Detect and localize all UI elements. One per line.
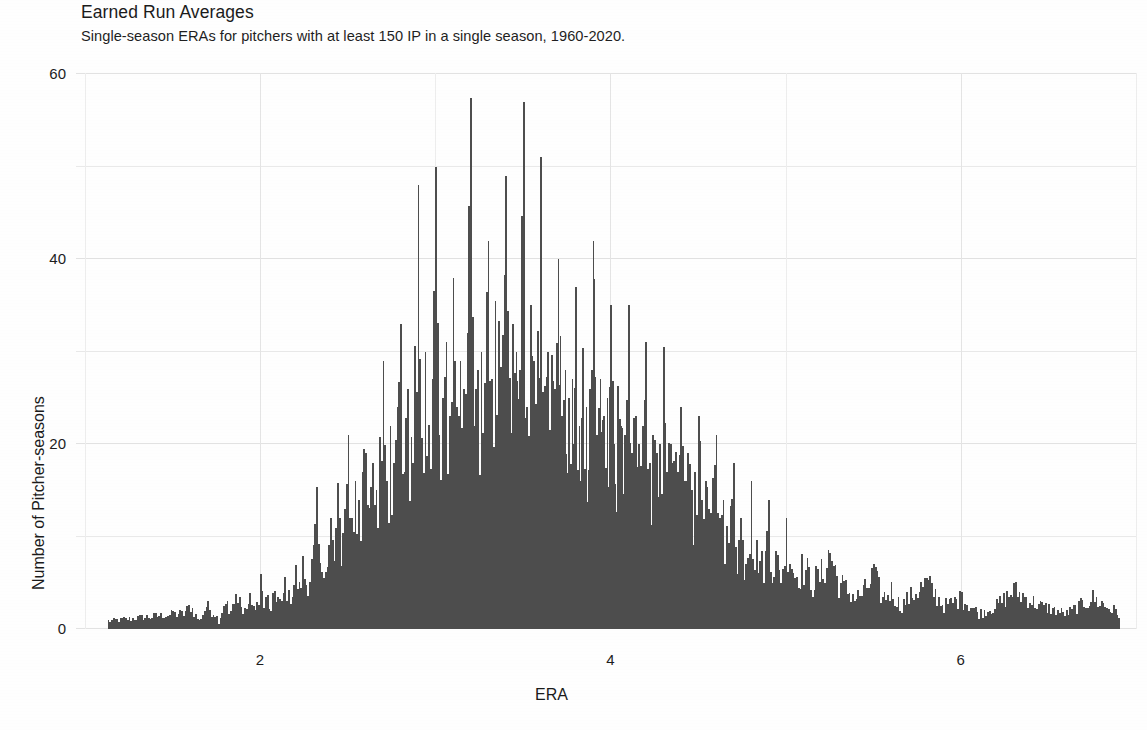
histogram-bar (484, 398, 486, 629)
histogram-bar (635, 416, 637, 629)
histogram-bar (603, 416, 605, 629)
histogram-bar (362, 472, 364, 629)
histogram-bar (716, 435, 718, 629)
histogram-bar (558, 259, 560, 629)
histogram-bar (708, 509, 710, 629)
y-axis-tick-label: 20 (20, 435, 66, 452)
y-axis-ticks: 0204060 (20, 0, 66, 730)
x-axis-tick-label: 4 (606, 651, 614, 668)
histogram-bar (456, 407, 458, 629)
plot-area (76, 73, 1136, 629)
histogram-bar (530, 305, 532, 629)
histogram-bar (519, 370, 521, 629)
histogram-bar (547, 352, 549, 630)
histogram-bar (652, 435, 654, 629)
histogram-bar (509, 389, 511, 630)
histogram-bar (400, 324, 402, 629)
histogram-bar (425, 352, 427, 630)
histogram-bar (607, 398, 609, 629)
histogram-bar (631, 453, 633, 629)
gridline-horizontal (76, 166, 1136, 167)
histogram-bar (449, 416, 451, 629)
histogram-bar (383, 361, 385, 629)
histogram-bar (730, 509, 732, 629)
histogram-bar (694, 472, 696, 629)
histogram-bar (670, 444, 672, 629)
histogram-bar (432, 379, 434, 629)
histogram-bar (421, 453, 423, 629)
histogram-bar (554, 389, 556, 630)
histogram-bar (439, 435, 441, 629)
histogram-bar (663, 370, 665, 629)
gridline-horizontal (76, 351, 1136, 352)
histogram-bar (386, 481, 388, 629)
histogram-bar (565, 370, 567, 629)
histogram-bar (379, 444, 381, 629)
histogram-bar (516, 352, 518, 630)
x-axis-tick-label: 6 (957, 651, 965, 668)
histogram-bar (495, 315, 497, 630)
histogram-bar (551, 361, 553, 629)
x-axis-label: ERA (0, 686, 1147, 704)
histogram-bar (428, 426, 430, 630)
histogram-bar (649, 463, 651, 630)
histogram-bar (680, 407, 682, 629)
histogram-bar (446, 342, 448, 629)
histogram-bar (568, 398, 570, 629)
histogram-bar (512, 324, 514, 629)
histogram-bar (470, 130, 472, 630)
gridline-vertical (85, 73, 86, 629)
histogram-bar (502, 361, 504, 629)
histogram-bar (397, 407, 399, 629)
histogram-bar (659, 444, 661, 629)
histogram-bar (477, 370, 479, 629)
gridline-vertical (260, 73, 261, 629)
histogram-bar (544, 398, 546, 629)
histogram-bar (316, 500, 318, 630)
histogram-bar (453, 278, 455, 630)
histogram-bar (596, 435, 598, 629)
histogram-bar (691, 490, 693, 629)
histogram-bar (351, 518, 353, 629)
histogram-bar (435, 167, 437, 630)
histogram-bar (666, 472, 668, 629)
histogram-bar (442, 398, 444, 629)
histogram-bar (505, 176, 507, 629)
histogram-bar (474, 426, 476, 630)
histogram-bar (390, 426, 392, 630)
histogram-bar (701, 500, 703, 630)
histogram-bar (407, 389, 409, 630)
histogram-bar (572, 379, 574, 629)
histogram-bar (684, 481, 686, 629)
histogram-bar (610, 305, 612, 629)
histogram-bar (589, 389, 591, 630)
histogram-bar (404, 472, 406, 629)
histogram-bar (638, 444, 640, 629)
histogram-bar (751, 481, 753, 629)
histogram-bar (579, 426, 581, 630)
histogram-bar (561, 416, 563, 629)
histogram-bar (677, 472, 679, 629)
histogram-bar (498, 342, 500, 629)
histogram-bar (523, 102, 525, 629)
histogram-bar (365, 453, 367, 629)
gridline-vertical (1136, 73, 1137, 629)
chart-page: Earned Run Averages Single-season ERAs f… (0, 0, 1147, 730)
histogram-bar (344, 509, 346, 629)
histogram-bar (369, 509, 371, 629)
histogram-bar (786, 518, 788, 629)
chart-title: Earned Run Averages (81, 2, 254, 23)
y-axis-tick-label: 40 (20, 250, 66, 267)
histogram-bar (698, 416, 700, 629)
histogram-bar (537, 342, 539, 629)
histogram-bar (376, 490, 378, 629)
x-axis-tick-label: 2 (256, 651, 264, 668)
histogram-bar (348, 435, 350, 629)
histogram-bar (467, 333, 469, 629)
histogram-bar (768, 500, 770, 630)
histogram-bar (540, 157, 542, 629)
histogram-bar (393, 463, 395, 630)
histogram-bar (1118, 618, 1120, 629)
histogram-bar (481, 352, 483, 630)
histogram-bar (642, 426, 644, 630)
